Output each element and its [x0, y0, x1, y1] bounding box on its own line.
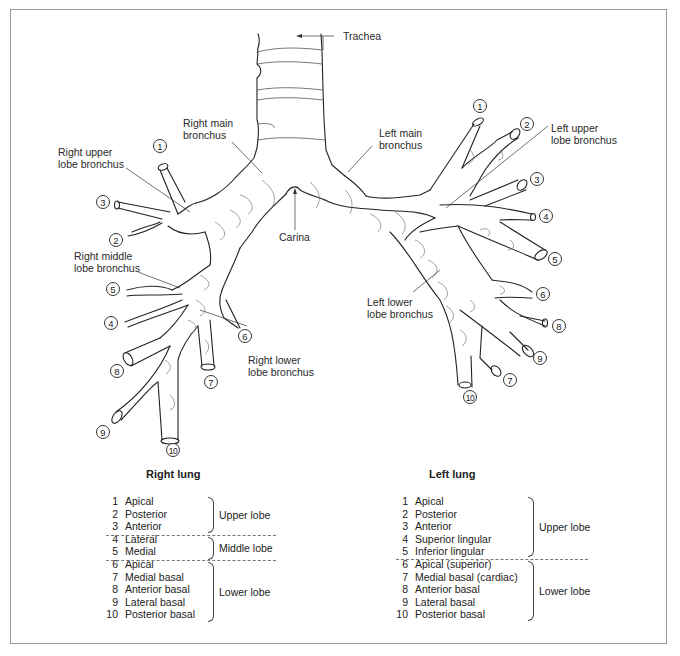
- right-divider-1: [106, 535, 276, 536]
- label-trachea: Trachea: [343, 30, 381, 42]
- table-row: 2Posterior: [103, 508, 195, 521]
- label-right-upper-lobe-bronchus: Right upper lobe bronchus: [58, 146, 124, 170]
- table-row: 1Apical: [103, 495, 195, 508]
- right-upper-lobe-label: Upper lobe: [219, 509, 270, 521]
- right-segment-marker-6: 6: [238, 329, 252, 343]
- left-segment-marker-9: 9: [533, 351, 547, 365]
- right-lower-lobe-brace: [208, 562, 214, 622]
- table-row: 1Apical: [393, 495, 518, 508]
- table-row: 7Medial basal (cardiac): [393, 571, 518, 584]
- left-lower-lobe-label: Lower lobe: [539, 585, 590, 597]
- right-lung-title: Right lung: [146, 468, 200, 480]
- table-row: 3Anterior: [393, 520, 518, 533]
- right-middle-lobe-label: Middle lobe: [219, 542, 273, 554]
- right-segment-marker-3: 3: [96, 195, 110, 209]
- right-segment-marker-4: 4: [104, 316, 118, 330]
- left-segment-marker-5: 5: [548, 252, 562, 266]
- table-row: 8Anterior basal: [393, 583, 518, 596]
- table-row: 9Lateral basal: [103, 596, 195, 609]
- label-left-lower-lobe-bronchus: Left lower lobe bronchus: [367, 296, 433, 320]
- leader-right-middle: [138, 272, 180, 288]
- right-lower-lobe-label: Lower lobe: [219, 586, 270, 598]
- leader-left-lower: [413, 270, 440, 292]
- left-lung-title: Left lung: [429, 468, 475, 480]
- table-row: 3Anterior: [103, 520, 195, 533]
- table-row: 8Anterior basal: [103, 583, 195, 596]
- leader-left-main: [348, 146, 372, 172]
- table-row: 5Medial: [103, 545, 195, 558]
- label-right-main-bronchus: Right main bronchus: [183, 117, 233, 141]
- left-lung-table: 1Apical 2Posterior 3Anterior 4Superior l…: [393, 495, 518, 621]
- label-left-upper-lobe-bronchus: Left upper lobe bronchus: [551, 122, 617, 146]
- label-right-lower-lobe-bronchus: Right lower lobe bronchus: [248, 354, 314, 378]
- label-left-main-bronchus: Left main bronchus: [379, 127, 422, 151]
- left-divider-1: [396, 559, 588, 560]
- left-segment-marker-3: 3: [530, 172, 544, 186]
- right-segment-marker-2: 2: [109, 233, 123, 247]
- trachea-shape: [236, 34, 261, 177]
- table-row: 5Inferior lingular: [393, 545, 518, 558]
- table-row: 4Superior lingular: [393, 533, 518, 546]
- right-segment-marker-8: 8: [110, 364, 124, 378]
- left-upper-lobe-brace: [528, 497, 534, 557]
- left-segment-marker-4: 4: [539, 209, 553, 223]
- right-segment-marker-9: 9: [96, 425, 110, 439]
- table-row: 7Medial basal: [103, 571, 195, 584]
- right-divider-2: [106, 560, 276, 561]
- table-row: 2Posterior: [393, 508, 518, 521]
- right-segment-marker-1: 1: [153, 139, 167, 153]
- table-row: 10Posterior basal: [393, 608, 518, 621]
- label-carina: Carina: [279, 231, 310, 243]
- right-lung-table: 1Apical 2Posterior 3Anterior 4Lateral 5M…: [103, 495, 195, 621]
- bronchial-tree-illustration: [0, 0, 680, 656]
- right-middle-lobe-brace: [208, 537, 214, 560]
- right-upper-lobe-brace: [208, 497, 214, 533]
- leader-left-upper: [446, 126, 548, 208]
- left-segment-marker-10: 10: [463, 390, 477, 404]
- left-segment-marker-6: 6: [536, 287, 550, 301]
- right-segment-marker-7: 7: [204, 375, 218, 389]
- table-row: 9Lateral basal: [393, 596, 518, 609]
- left-segment-marker-7: 7: [503, 373, 517, 387]
- left-segment-marker-1: 1: [473, 99, 487, 113]
- left-lower-lobe-brace: [528, 561, 534, 621]
- leader-right-lower: [200, 310, 247, 326]
- right-segment-marker-10: 10: [166, 443, 180, 457]
- leader-trachea: [300, 36, 334, 50]
- label-right-middle-lobe-bronchus: Right middle lobe bronchus: [74, 250, 140, 274]
- right-segment-marker-5: 5: [106, 282, 120, 296]
- left-segment-marker-8: 8: [552, 319, 566, 333]
- left-segment-marker-2: 2: [520, 117, 534, 131]
- table-row: 10Posterior basal: [103, 608, 195, 621]
- left-upper-lobe-label: Upper lobe: [539, 521, 590, 533]
